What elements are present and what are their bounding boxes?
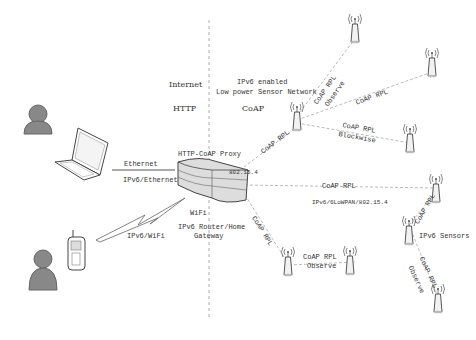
sensor-tower-icon (349, 14, 362, 44)
router-gateway-icon (178, 159, 248, 203)
router-label-line1: IPv6 Router/Home (178, 224, 245, 231)
coap-rpl-link-label: CoAP RPL (303, 254, 337, 261)
sensor-tower-icon (404, 124, 417, 154)
sensor-network-title-line1: IPv6 enabled (237, 79, 287, 86)
ipv6-wifi-label: IPv6/WiFi (127, 233, 165, 240)
sensor-network-title-line2: Low power Sensor Network (216, 89, 317, 96)
sensor-tower-icon (426, 48, 439, 78)
ethernet-label: Ethernet (124, 161, 158, 168)
internet-zone-label: Internet (169, 81, 202, 89)
sensor-tower-icon (291, 102, 304, 132)
laptop-icon (55, 128, 108, 180)
ieee-802154-label: 802.15.4 (229, 170, 258, 176)
sensor-tower-icon (344, 246, 357, 276)
observe-link-label: Observe (307, 263, 336, 270)
router-label-line2: Gateway (194, 233, 223, 240)
wifi-label: WiFi (190, 210, 207, 217)
user-person-icon (24, 105, 52, 134)
sixlowpan-label: IPv6/6LoWPAN/802.15.4 (312, 200, 388, 206)
ipv6-sensors-label: IPv6 Sensors (419, 233, 469, 240)
user-person-icon (29, 250, 57, 290)
http-protocol-label: HTTP (173, 105, 196, 113)
sensor-tower-icon (282, 247, 295, 277)
mobile-phone-icon (68, 230, 85, 270)
coap-rpl-link-label: CoAP RPL (322, 183, 356, 190)
coap-protocol-label: CoAP (242, 105, 264, 113)
proxy-label: HTTP-CoAP Proxy (178, 151, 241, 158)
ipv6-ethernet-label: IPv6/Ethernet (123, 177, 178, 184)
